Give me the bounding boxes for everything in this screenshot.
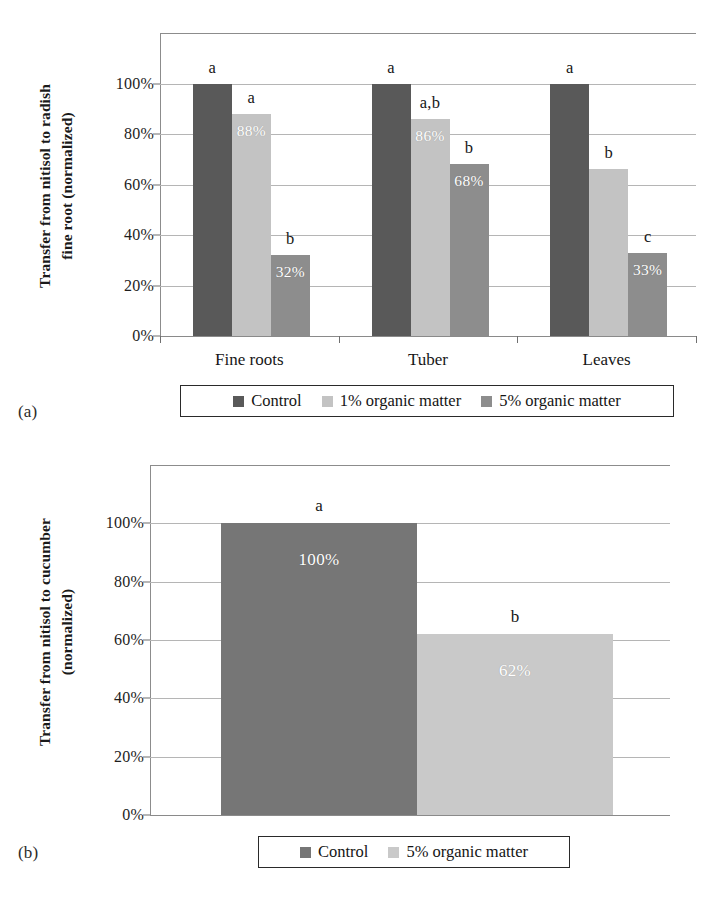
y-tick-label-20: 20%	[114, 748, 144, 766]
y-tick-label-80: 80%	[114, 573, 144, 591]
y-tick-label-0: 0%	[132, 327, 154, 345]
y-tick-label-60: 60%	[114, 631, 144, 649]
panel-b-tag: (b)	[18, 843, 38, 863]
bar-value-label: 100%	[221, 550, 417, 570]
y-tickmark-0	[143, 815, 150, 816]
bar-value-label: 32%	[271, 263, 310, 281]
legend-item-control[interactable]: Control	[233, 391, 301, 411]
panel-a-plot-area: 100%80%60%40%20%0% a88%a32%ba86%a,b68%ba…	[160, 33, 696, 336]
significance-letter: b	[604, 143, 612, 163]
bar: 68%	[450, 164, 489, 336]
y-tickmark-40	[153, 235, 160, 236]
panel-a: (a) Transfer from nitisol to radish fine…	[0, 0, 723, 452]
gridline-0	[150, 815, 670, 816]
legend-swatch-icon	[481, 396, 492, 407]
significance-letter: a,b	[420, 93, 440, 113]
bar	[193, 84, 232, 337]
bar: 86%	[411, 119, 450, 336]
y-tickmark-80	[153, 134, 160, 135]
legend-label: 1% organic matter	[340, 391, 462, 411]
bar: 62%	[417, 634, 613, 815]
significance-letter: a	[387, 58, 395, 78]
bar-value-label: 86%	[411, 127, 450, 145]
significance-letter: a	[566, 58, 574, 78]
x-tickmark-end	[696, 336, 697, 343]
y-tick-label-40: 40%	[124, 226, 154, 244]
plot-top-border	[160, 33, 696, 34]
bar	[372, 84, 411, 337]
significance-letter: a	[209, 58, 217, 78]
y-tickmark-20	[153, 285, 160, 286]
y-tick-label-40: 40%	[114, 689, 144, 707]
legend-label: Control	[318, 842, 368, 862]
x-category-label-leaves: Leaves	[583, 350, 631, 370]
legend-swatch-icon	[388, 847, 399, 858]
bar: 100%	[221, 523, 417, 815]
legend-swatch-icon	[300, 847, 311, 858]
panel-b-legend: Control5% organic matter	[258, 836, 570, 868]
x-tickmark	[517, 336, 518, 343]
x-category-label-fine-roots: Fine roots	[215, 350, 283, 370]
significance-letter: a	[315, 496, 323, 516]
bar: 32%	[271, 255, 310, 336]
bar-value-label: 62%	[417, 661, 613, 681]
x-category-label-tuber: Tuber	[408, 350, 448, 370]
y-tickmark-60	[153, 184, 160, 185]
bar	[589, 169, 628, 336]
bar: 33%	[628, 253, 667, 336]
bar-value-label: 88%	[232, 122, 271, 140]
y-tickmark-100	[153, 83, 160, 84]
legend-swatch-icon	[322, 396, 333, 407]
y-tick-label-80: 80%	[124, 125, 154, 143]
bar	[550, 84, 589, 337]
plot-top-border	[150, 465, 670, 466]
legend-item-1-organic-matter[interactable]: 1% organic matter	[322, 391, 462, 411]
panel-b: (b) Transfer from nitisol to cucumber (n…	[0, 452, 723, 902]
y-tick-label-100: 100%	[116, 75, 154, 93]
bar: 88%	[232, 114, 271, 336]
y-tickmark-20	[143, 756, 150, 757]
legend-item-control[interactable]: Control	[300, 842, 368, 862]
y-tickmark-100	[143, 523, 150, 524]
bar-value-label: 68%	[450, 172, 489, 190]
significance-letter: b	[286, 229, 294, 249]
legend-item-5-organic-matter[interactable]: 5% organic matter	[481, 391, 621, 411]
panel-a-legend: Control1% organic matter5% organic matte…	[180, 385, 674, 417]
y-tick-label-100: 100%	[106, 514, 144, 532]
y-tick-label-20: 20%	[124, 277, 154, 295]
gridline-100	[160, 84, 696, 85]
legend-item-5-organic-matter[interactable]: 5% organic matter	[388, 842, 528, 862]
bar-value-label: 33%	[628, 261, 667, 279]
significance-letter: b	[511, 607, 520, 627]
significance-letter: c	[644, 227, 652, 247]
y-tick-label-60: 60%	[124, 176, 154, 194]
panel-a-y-axis-title: Transfer from nitisol to radish fine roo…	[34, 36, 78, 336]
y-tickmark-40	[143, 698, 150, 699]
legend-label: 5% organic matter	[406, 842, 528, 862]
legend-label: Control	[251, 391, 301, 411]
legend-label: 5% organic matter	[499, 391, 621, 411]
y-tick-label-0: 0%	[122, 806, 144, 824]
gridline-0	[160, 336, 696, 337]
legend-swatch-icon	[233, 396, 244, 407]
y-tickmark-80	[143, 581, 150, 582]
panel-b-y-axis-title: Transfer from nitisol to cucumber (norma…	[34, 467, 78, 797]
y-tickmark-60	[143, 640, 150, 641]
x-tickmark	[339, 336, 340, 343]
x-tickmark-end	[160, 336, 161, 343]
panel-b-plot-area: 100%80%60%40%20%0% 100%a62%b	[150, 465, 670, 815]
significance-letter: a	[248, 88, 256, 108]
significance-letter: b	[465, 138, 473, 158]
panel-a-tag: (a)	[18, 402, 37, 422]
y-tickmark-0	[153, 336, 160, 337]
